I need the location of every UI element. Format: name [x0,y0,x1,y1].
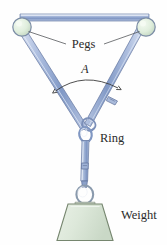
pegs-callout: Pegs [29,32,140,52]
strap-buckle [106,97,117,106]
angle-label: A [80,62,89,76]
hanging-strap [81,141,89,188]
right-peg-specular [140,21,146,27]
weight-label: Weight [121,208,157,222]
right-peg-body [137,18,155,36]
weight-ring [75,186,95,205]
figure-canvas: Pegs A Ring [0,0,167,245]
left-peg [13,18,31,36]
pegs-label: Pegs [72,37,96,51]
top-strap [20,14,149,21]
weight-ring-highlight [78,187,87,197]
right-strap [85,19,149,127]
ring-label: Ring [100,131,125,145]
right-strap-highlight [89,23,146,126]
weight-block [57,204,113,241]
weight-block-body [57,204,113,241]
hanging-strap-buckle [81,163,88,169]
physics-figure-pegs-weight: Pegs A Ring [0,0,167,245]
left-peg-specular [16,21,22,27]
left-peg-body [13,18,31,36]
right-peg [137,18,155,36]
